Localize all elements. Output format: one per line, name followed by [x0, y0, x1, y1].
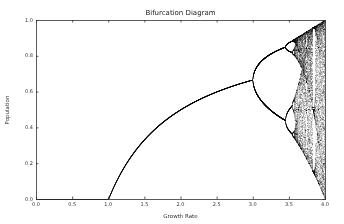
x-tick-label: 3.0: [243, 201, 263, 207]
y-tick-label: 0.6: [13, 88, 33, 94]
x-tick-label: 0.0: [26, 201, 46, 207]
x-tick-label: 3.5: [279, 201, 299, 207]
y-tick-label: 0.8: [13, 52, 33, 58]
chart-title: Bifurcation Diagram: [36, 9, 325, 17]
x-tick-label: 2.0: [171, 201, 191, 207]
y-tick-label: 0.2: [13, 160, 33, 166]
bifurcation-plot-canvas: [0, 0, 344, 224]
x-tick-label: 2.5: [207, 201, 227, 207]
x-tick-label: 1.0: [98, 201, 118, 207]
x-axis-label: Growth Rate: [36, 213, 325, 219]
x-tick-label: 0.5: [62, 201, 82, 207]
y-tick-label: 0.4: [13, 124, 33, 130]
x-tick-label: 4.0: [315, 201, 335, 207]
x-tick-label: 1.5: [134, 201, 154, 207]
y-axis-label: Population: [4, 96, 10, 125]
y-tick-label: 1.0: [13, 17, 33, 23]
